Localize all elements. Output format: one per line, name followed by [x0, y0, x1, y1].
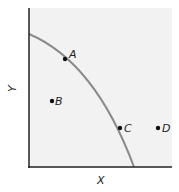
point-c-label: C: [124, 122, 132, 135]
point-c: [118, 126, 122, 130]
y-axis-label: Y: [6, 84, 19, 92]
point-b-label: B: [55, 95, 63, 108]
point-d-label: D: [162, 122, 170, 135]
point-b: [50, 99, 54, 103]
plot-area: [30, 8, 172, 167]
point-a: [63, 57, 67, 61]
ppf-diagram: A B C D X Y: [0, 0, 179, 192]
x-axis-label: X: [96, 174, 105, 187]
point-a-label: A: [68, 48, 77, 61]
point-d: [156, 126, 160, 130]
